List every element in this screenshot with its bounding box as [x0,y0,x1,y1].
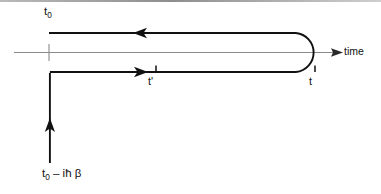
label-t: t [309,76,312,87]
label-t0-minus-i-hbar-beta: t0 – iħ β [42,168,81,183]
label-t0: t0 [44,6,52,21]
keldysh-contour-svg [0,0,381,194]
figure-canvas: t0 t0 – iħ β t' t time [0,0,381,194]
contour-tick-marks [156,66,315,73]
label-t-prime: t' [148,76,153,87]
contour-arrowheads [45,28,148,132]
label-time-axis: time [344,46,364,57]
time-axis-group [14,44,343,61]
label-t0-subscript: 0 [47,11,52,20]
label-t0-ihb-rest: – iħ β [50,167,82,179]
